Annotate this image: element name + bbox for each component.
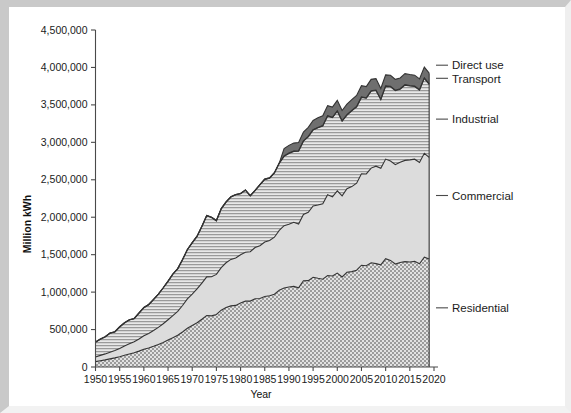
x-tick-label: 1990 — [277, 373, 301, 385]
series-label-direct-use: Direct use — [452, 59, 504, 71]
y-tick-labels: 0500,0001,000,0001,500,0002,000,0002,500… — [41, 24, 88, 373]
x-tick-label: 1960 — [132, 373, 156, 385]
series-label-residential: Residential — [452, 302, 509, 314]
series-label-leaders — [436, 65, 448, 308]
y-tick-label: 3,500,000 — [41, 98, 88, 110]
y-tick-label: 3,000,000 — [41, 136, 88, 148]
x-tick-label: 1995 — [301, 373, 325, 385]
y-tick-label: 4,000,000 — [41, 61, 88, 73]
y-tick-label: 500,000 — [50, 323, 88, 335]
x-axis-title: Year — [250, 388, 272, 400]
x-tick-label: 1975 — [205, 373, 229, 385]
x-tick-label: 2000 — [326, 373, 350, 385]
x-tick-label: 1955 — [108, 373, 132, 385]
series-label-commercial: Commercial — [452, 190, 513, 202]
x-tick-label: 1950 — [84, 373, 108, 385]
x-tick-label: 2020 — [422, 373, 446, 385]
y-tick-label: 1,000,000 — [41, 286, 88, 298]
x-tick-label: 2010 — [374, 373, 398, 385]
x-tick-labels: 1950195519601965197019751980198519901995… — [84, 373, 446, 385]
y-tick-label: 2,000,000 — [41, 211, 88, 223]
x-tick-label: 1965 — [156, 373, 180, 385]
series-label-industrial: Industrial — [452, 113, 499, 125]
x-tick-label: 1985 — [253, 373, 277, 385]
y-axis-title: Million kWh — [21, 195, 33, 253]
area-series-group — [96, 67, 430, 367]
x-tick-label: 1970 — [181, 373, 205, 385]
y-tick-label: 2,500,000 — [41, 173, 88, 185]
y-tick-label: 4,500,000 — [41, 24, 88, 36]
y-tick-label: 0 — [82, 361, 88, 373]
stacked-area-chart: 0500,0001,000,0001,500,0002,000,0002,500… — [0, 0, 571, 413]
x-tick-label: 2015 — [398, 373, 422, 385]
x-tick-label: 1980 — [229, 373, 253, 385]
series-label-transport: Transport — [452, 73, 502, 85]
chart-figure: 0500,0001,000,0001,500,0002,000,0002,500… — [0, 0, 571, 413]
x-tick-label: 2005 — [350, 373, 374, 385]
y-tick-label: 1,500,000 — [41, 248, 88, 260]
series-labels: Direct useTransportIndustrialCommercialR… — [452, 59, 513, 314]
